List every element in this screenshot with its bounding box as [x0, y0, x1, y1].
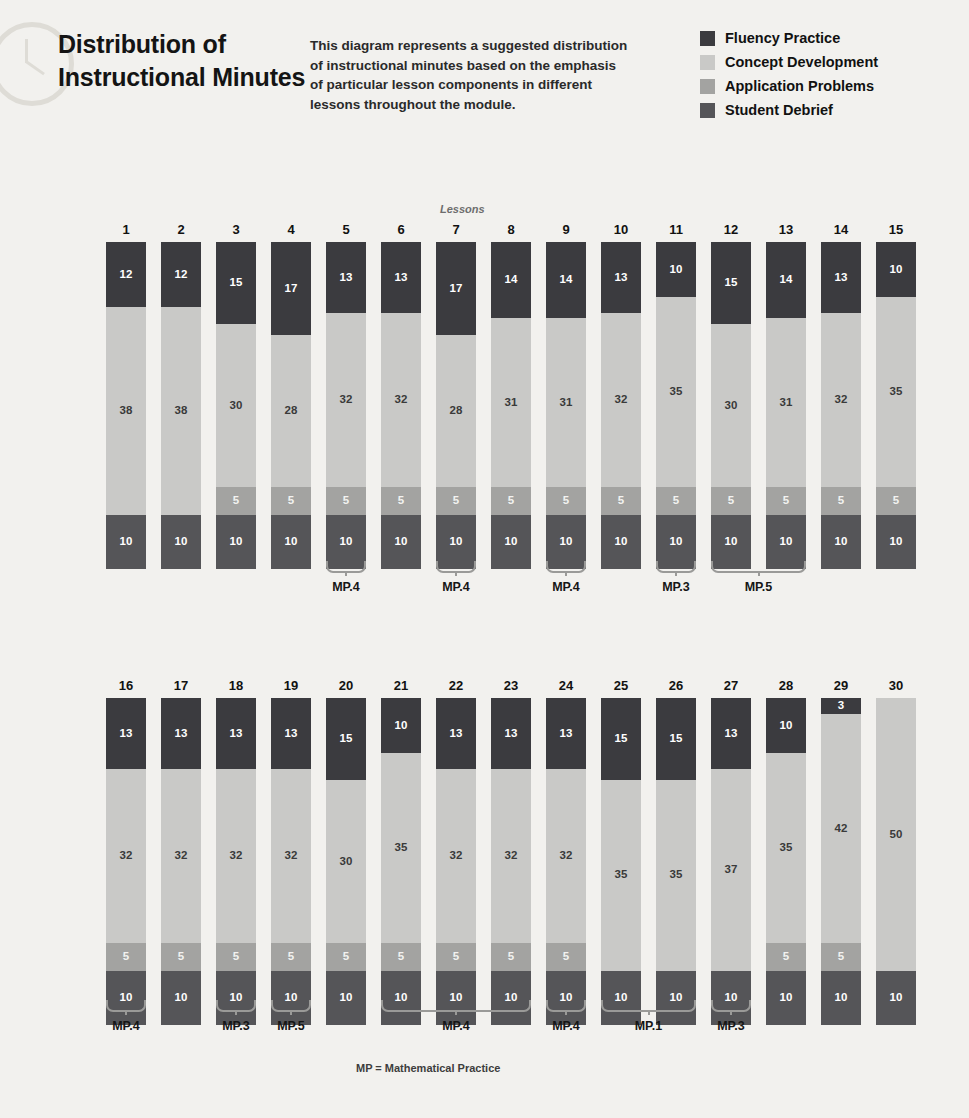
- bar-segment-concept: 38: [106, 307, 146, 514]
- bar-segment-fluency: 10: [766, 698, 806, 753]
- bar-segment-fluency: 13: [326, 242, 366, 313]
- bar-segment-application: 5: [821, 487, 861, 514]
- bar-segment-fluency: 15: [216, 242, 256, 324]
- mp-annotation: MP.1: [601, 1000, 696, 1033]
- lesson-column: 131431510: [766, 222, 806, 569]
- lesson-number-label: 16: [119, 678, 133, 693]
- lesson-column: 2123810: [161, 222, 201, 569]
- mp-bracket-icon: [711, 1000, 751, 1012]
- bar-segment-fluency: 12: [161, 242, 201, 307]
- mp-bracket-icon: [326, 561, 366, 573]
- lesson-column: 141332510: [821, 222, 861, 569]
- lesson-column: 71728510: [436, 222, 476, 569]
- bar-segment-application: 5: [711, 487, 751, 514]
- bar-segment-concept: 32: [271, 769, 311, 943]
- mp-annotation: MP.4: [381, 1000, 531, 1033]
- legend-item-label: Application Problems: [725, 78, 874, 94]
- stacked-bar: 1728510: [436, 242, 476, 569]
- bar-segment-concept: 31: [491, 318, 531, 487]
- bar-segment-debrief: 10: [271, 515, 311, 570]
- bar-segment-fluency: 14: [766, 242, 806, 318]
- bar-segment-fluency: 13: [711, 698, 751, 769]
- mp-label: MP.4: [546, 580, 586, 594]
- lesson-number-label: 12: [724, 222, 738, 237]
- bar-segment-concept: 32: [106, 769, 146, 943]
- stacked-bar: 1332510: [216, 698, 256, 1025]
- bar-segment-application: 5: [876, 487, 916, 514]
- bar-segment-concept: 31: [546, 318, 586, 487]
- stacked-bar: 1728510: [271, 242, 311, 569]
- bar-segment-fluency: 15: [601, 698, 641, 780]
- lesson-column: 221332510: [436, 678, 476, 1025]
- bar-segment-concept: 30: [711, 324, 751, 488]
- bar-group: 1613325101713325101813325101913325102015…: [106, 678, 916, 1025]
- lesson-column: 1123810: [106, 222, 146, 569]
- mp-label: MP.4: [546, 1019, 586, 1033]
- legend-item: Application Problems: [700, 78, 878, 94]
- bar-group: 1123810212381031530510417285105133251061…: [106, 222, 916, 569]
- lesson-column: 121530510: [711, 222, 751, 569]
- lesson-number-label: 9: [562, 222, 569, 237]
- lesson-number-label: 27: [724, 678, 738, 693]
- mp-bracket-icon: [381, 1000, 531, 1012]
- lesson-number-label: 26: [669, 678, 683, 693]
- bar-segment-concept: 42: [821, 714, 861, 943]
- bar-segment-concept: 35: [381, 753, 421, 944]
- bar-segment-fluency: 15: [326, 698, 366, 780]
- bar-segment-concept: 32: [546, 769, 586, 943]
- bar-segment-debrief: 10: [821, 971, 861, 1026]
- lesson-number-label: 1: [122, 222, 129, 237]
- legend-item: Student Debrief: [700, 102, 878, 118]
- stacked-bar: 1332510: [106, 698, 146, 1025]
- bar-segment-debrief: 10: [326, 971, 366, 1026]
- lesson-number-label: 28: [779, 678, 793, 693]
- mp-annotation: MP.3: [656, 561, 696, 594]
- bar-segment-application: 5: [326, 487, 366, 514]
- stacked-bar: 1332510: [381, 242, 421, 569]
- mp-label: MP.4: [436, 580, 476, 594]
- lesson-column: 281035510: [766, 678, 806, 1025]
- bar-segment-fluency: 10: [876, 242, 916, 297]
- stacked-bar: 1431510: [546, 242, 586, 569]
- bar-segment-fluency: 3: [821, 698, 861, 714]
- stacked-bar: 1530510: [326, 698, 366, 1025]
- bar-segment-concept: 30: [326, 780, 366, 944]
- legend-item-label: Concept Development: [725, 54, 878, 70]
- stacked-bar: 1530510: [711, 242, 751, 569]
- bar-segment-fluency: 12: [106, 242, 146, 307]
- bar-segment-fluency: 17: [271, 242, 311, 335]
- lesson-column: 191332510: [271, 678, 311, 1025]
- bar-segment-concept: 38: [161, 307, 201, 514]
- bar-segment-concept: 50: [876, 698, 916, 971]
- lesson-column: 171332510: [161, 678, 201, 1025]
- lesson-column: 81431510: [491, 222, 531, 569]
- bar-segment-application: 5: [271, 943, 311, 970]
- bar-segment-concept: 32: [821, 313, 861, 487]
- bar-segment-fluency: 17: [436, 242, 476, 335]
- description-text: This diagram represents a suggested dist…: [310, 36, 630, 114]
- mp-annotation: MP.4: [546, 561, 586, 594]
- lesson-column: 61332510: [381, 222, 421, 569]
- legend-swatch-icon: [700, 79, 715, 94]
- stacked-bar: 1035510: [656, 242, 696, 569]
- mp-bracket-icon: [106, 1000, 146, 1012]
- mp-bracket-icon: [546, 1000, 586, 1012]
- bar-segment-debrief: 10: [216, 515, 256, 570]
- lesson-number-label: 29: [834, 678, 848, 693]
- lesson-number-label: 13: [779, 222, 793, 237]
- bar-segment-fluency: 13: [106, 698, 146, 769]
- bar-segment-fluency: 14: [491, 242, 531, 318]
- mp-bracket-icon: [216, 1000, 256, 1012]
- bar-segment-debrief: 10: [106, 515, 146, 570]
- bar-segment-concept: 31: [766, 318, 806, 487]
- stacked-bar: 1332510: [271, 698, 311, 1025]
- bar-segment-fluency: 13: [491, 698, 531, 769]
- lesson-number-label: 4: [287, 222, 294, 237]
- mp-annotation: MP.4: [326, 561, 366, 594]
- mp-label: MP.3: [216, 1019, 256, 1033]
- bar-segment-application: 5: [546, 943, 586, 970]
- lesson-column: 31530510: [216, 222, 256, 569]
- mp-label: MP.5: [711, 580, 806, 594]
- legend-item: Concept Development: [700, 54, 878, 70]
- bar-segment-application: 5: [161, 943, 201, 970]
